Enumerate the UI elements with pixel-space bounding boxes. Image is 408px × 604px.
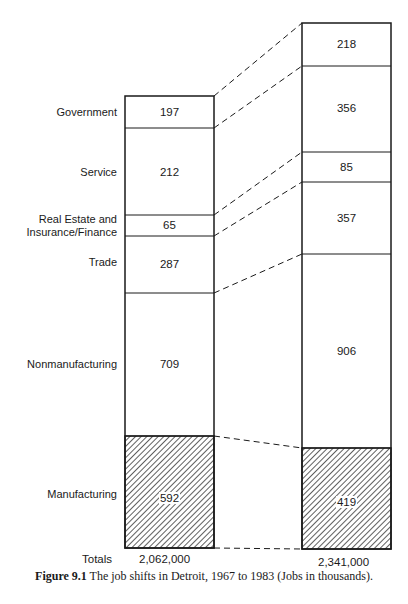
bar-1967 (125, 96, 214, 548)
label-service: Service (80, 166, 117, 179)
value-nonmanufacturing-1967: 709 (125, 358, 214, 371)
value-service-1983: 356 (302, 102, 391, 115)
value-manufacturing-1983-wrap: 419 (302, 492, 391, 510)
label-trade: Trade (89, 256, 117, 269)
label-manufacturing: Manufacturing (47, 488, 117, 501)
figure-number: Figure 9.1 (35, 569, 87, 583)
value-service-1967: 212 (125, 166, 214, 179)
value-real-estate-1967: 65 (125, 219, 214, 232)
value-nonmanufacturing-1983: 906 (302, 345, 391, 358)
total-1967: 2,062,000 (139, 553, 190, 565)
label-nonmanufacturing: Nonmanufacturing (27, 358, 117, 371)
figure-caption: Figure 9.1 The job shifts in Detroit, 19… (0, 569, 408, 584)
value-trade-1983: 357 (302, 212, 391, 225)
stacked-bar-chart (0, 0, 408, 604)
value-government-1967: 197 (125, 106, 214, 119)
caption-text: The job shifts in Detroit, 1967 to 1983 … (87, 569, 373, 583)
totals-label: Totals (82, 553, 112, 565)
connector-lines (214, 23, 302, 549)
value-manufacturing-1967-wrap: 592 (125, 488, 214, 506)
value-trade-1967: 287 (125, 258, 214, 271)
value-government-1983: 218 (302, 38, 391, 51)
value-manufacturing-1983: 419 (336, 496, 357, 508)
total-1983: 2,341,000 (318, 556, 369, 568)
value-real-estate-1983: 85 (302, 161, 391, 174)
value-manufacturing-1967: 592 (159, 492, 180, 504)
label-government: Government (56, 106, 117, 119)
label-real-estate: Real Estate and Insurance/Finance (27, 213, 118, 239)
